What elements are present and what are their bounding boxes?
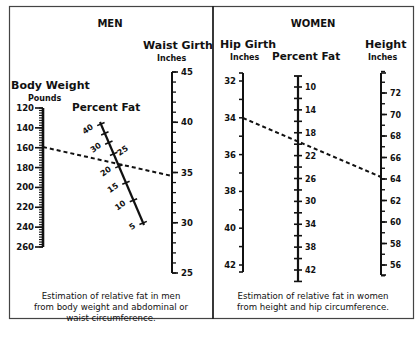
tick-label: 15 [106,181,121,195]
tick-label: 10 [113,198,128,212]
tick-label: 30 [305,197,317,206]
figure-frame [10,7,414,319]
waist-girth-label: Waist Girth [143,39,213,52]
women-title: WOMEN [291,18,336,29]
women-example-line [243,118,381,177]
tick-label: 36 [224,150,236,160]
men-title: MEN [97,18,122,29]
tick-label: 40 [181,117,193,127]
tick-label: 18 [305,129,317,138]
tick-label: 20 [99,164,114,178]
women-caption-line-1: Estimation of relative fat in women [237,291,388,301]
hip-girth-label: Hip Girth [220,38,276,51]
tick-label: 14 [305,106,317,115]
tick-label: 120 [16,103,34,113]
men-percent-fat-scale: 4030252015105 [81,122,147,232]
tick-label: 56 [390,261,402,270]
tick-label: 42 [305,266,316,275]
body-weight-label: Body Weight [11,79,90,92]
men-panel: MEN Body Weight Pounds 12014016018020022… [11,18,213,323]
tick-label: 38 [305,243,317,252]
tick-label: 160 [16,143,34,153]
tick-label: 140 [16,123,34,133]
tick-label: 32 [224,76,236,86]
tick-label: 68 [390,132,402,141]
height-unit: Inches [368,53,398,62]
tick-label: 72 [390,89,401,98]
body-weight-scale: 120140160180200220240260 [16,103,43,252]
body-fat-nomogram-figure: MEN Body Weight Pounds 12014016018020022… [0,0,417,340]
tick-label: 45 [181,67,193,77]
tick-label: 70 [390,111,402,120]
tick-label: 35 [181,168,193,178]
tick-label: 58 [390,240,402,249]
tick-label: 25 [116,144,131,158]
tick-label: 62 [390,197,401,206]
height-scale: 727068666462605856 [381,72,402,276]
men-percent-fat-label: Percent Fat [72,101,140,113]
tick-label: 40 [81,122,96,136]
tick-label: 260 [16,242,34,252]
waist-girth-unit: Inches [157,54,187,63]
tick-label: 30 [89,141,104,155]
women-panel: WOMEN Hip Girth Inches 323436384042 Perc… [220,18,406,312]
waist-girth-scale: 4540353025 [172,67,193,278]
hip-girth-scale: 323436384042 [224,73,243,272]
women-caption-line-2: from height and hip circumference. [237,302,389,312]
tick-label: 66 [390,154,402,163]
tick-label: 38 [224,186,236,196]
women-percent-fat-label: Percent Fat [272,50,340,62]
men-caption-line-3: waist circumference. [66,313,155,323]
tick-label: 180 [16,163,34,173]
tick-label: 42 [224,260,236,270]
hip-girth-unit: Inches [230,53,260,62]
tick-label: 40 [224,223,236,233]
tick-label: 200 [16,182,34,192]
tick-label: 26 [305,175,317,184]
tick-label: 34 [305,220,317,229]
tick-label: 5 [128,221,138,232]
tick-label: 25 [181,268,193,278]
men-caption-line-2: from body weight and abdominal or [34,302,189,312]
tick-label: 60 [390,218,402,227]
men-caption-line-1: Estimation of relative fat in men [42,291,181,301]
tick-label: 22 [305,152,316,161]
height-label: Height [365,38,406,51]
body-weight-unit: Pounds [28,94,61,103]
women-percent-fat-scale: 101418222630343842 [294,76,317,281]
tick-label: 240 [16,222,34,232]
tick-label: 64 [390,175,402,184]
tick-label: 10 [305,83,317,92]
tick-label: 34 [224,113,236,123]
tick-label: 30 [181,218,193,228]
tick-label: 220 [16,202,34,212]
